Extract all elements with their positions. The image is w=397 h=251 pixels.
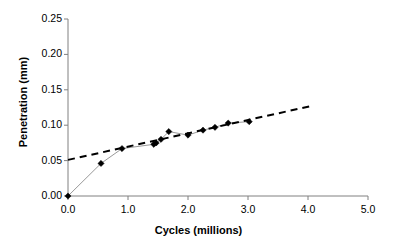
x-tick-label: 3.0 xyxy=(228,203,268,215)
x-tick-label: 4.0 xyxy=(288,203,328,215)
x-axis-title: Cycles (millions) xyxy=(0,224,397,236)
x-tick-label: 2.0 xyxy=(168,203,208,215)
x-tick-label: 5.0 xyxy=(348,203,388,215)
penetration-vs-cycles-chart: 0.01.02.03.04.05.00.000.050.100.150.200.… xyxy=(0,0,397,251)
y-tick-label: 0.25 xyxy=(18,12,62,24)
x-tick-label: 0.0 xyxy=(48,203,88,215)
y-tick-label: 0.00 xyxy=(18,189,62,201)
x-tick-label: 1.0 xyxy=(108,203,148,215)
y-axis-title: Penetration (mm) xyxy=(17,32,29,172)
